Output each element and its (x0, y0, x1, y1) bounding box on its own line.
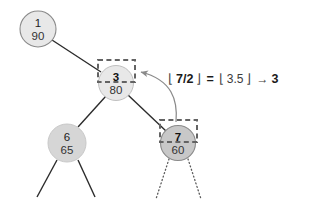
floor-open-bracket-2: ⌊ (219, 72, 224, 85)
floor-division-formula: ⌊ 7/2 ⌋ = ⌊ 3.5 ⌋ → 3 (168, 68, 308, 90)
tree-node-6[interactable]: 6 65 (48, 124, 86, 162)
formula-operand-3-point-5: 3.5 (227, 73, 244, 85)
edge-node7-right-child (188, 159, 201, 199)
edge-root-to-node3 (52, 40, 101, 72)
formula-right-arrow-icon: → (256, 73, 268, 85)
node-value-label: 60 (172, 144, 185, 156)
floor-close-bracket-2: ⌋ (246, 72, 251, 85)
node-key-label: 1 (35, 17, 41, 29)
formula-result-3: 3 (271, 73, 278, 86)
node-value-label: 80 (110, 84, 123, 96)
edge-node6-right-child (78, 160, 95, 197)
formula-operand-7-over-2: 7/2 (176, 73, 193, 86)
edge-node6-left-child (37, 160, 57, 197)
tree-diagram: 1 90 6 65 3 80 7 60 ⌊ 7/2 ⌋ (0, 0, 311, 204)
edge-node3-to-node6 (78, 96, 106, 127)
node-key-label: 6 (64, 131, 70, 143)
formula-equals-sign: = (206, 73, 213, 86)
tree-canvas: 1 90 6 65 3 80 7 60 (0, 0, 311, 204)
floor-close-bracket-1: ⌋ (196, 72, 201, 85)
tree-node-1[interactable]: 1 90 (20, 11, 56, 47)
tree-node-3[interactable]: 3 80 (98, 60, 135, 101)
node-value-label: 90 (32, 30, 45, 42)
floor-open-bracket-1: ⌊ (168, 72, 173, 85)
tree-node-7[interactable]: 7 60 (160, 120, 197, 161)
node-circle (48, 124, 86, 162)
node-value-label: 65 (61, 144, 74, 156)
edge-node7-left-child (156, 159, 169, 199)
